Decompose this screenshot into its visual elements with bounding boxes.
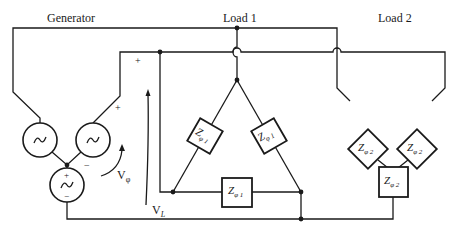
load1-left-lead [160, 52, 173, 192]
junction-dot [299, 190, 304, 195]
generator-label: Generator [47, 11, 95, 26]
load1-apex-lead [233, 28, 237, 80]
phase-voltage-label: Vφ [117, 168, 130, 184]
vphi-minus-sign: − [84, 160, 90, 171]
junction-dot [235, 78, 240, 83]
load2-z-bottom-label: Zφ 2 [384, 174, 399, 189]
load2-label: Load 2 [378, 11, 412, 26]
load1-z-bottom-label: Zφ 1 [228, 184, 243, 199]
junction-dot [65, 163, 70, 168]
vl-arrowhead [146, 89, 151, 96]
load2-z-left-label: Zφ 2 [358, 141, 373, 156]
vl-plus-sign: + [135, 55, 141, 66]
source-c-plus: + [64, 170, 69, 180]
junction-dot [235, 26, 240, 31]
line-voltage-label: VL [152, 203, 165, 219]
junction-dot [158, 50, 163, 55]
junction-dot [171, 190, 176, 195]
line-wire-a [13, 28, 350, 123]
junction-dot [299, 217, 304, 222]
load1-label: Load 1 [223, 11, 257, 26]
vphi-arrowhead [119, 144, 125, 151]
load2-z-right-label: Zφ 2 [407, 141, 422, 156]
line-wire-b [93, 48, 445, 123]
vl-arrow [146, 94, 148, 205]
vphi-plus-sign: + [115, 102, 121, 113]
source-c-minus: − [64, 191, 69, 201]
